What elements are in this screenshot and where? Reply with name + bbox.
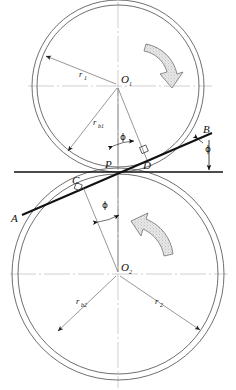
rotation-arrow-bottom-icon <box>131 213 173 256</box>
centerlines <box>10 2 228 388</box>
label-angle-top: ϕ <box>120 132 126 142</box>
label-point-c: C <box>72 174 80 186</box>
label-bottom-base-radius-sub: b2 <box>81 302 87 308</box>
label-top-base-radius-sub: b1 <box>98 123 104 129</box>
angle-arc-bottom <box>98 215 119 222</box>
label-center-bottom-sub: 2 <box>129 269 132 275</box>
label-center-bottom: O <box>121 261 129 273</box>
label-pitch-point: P <box>104 158 112 170</box>
label-top-base-radius: r <box>93 117 97 127</box>
label-point-a: A <box>10 212 18 224</box>
label-bottom-pitch-radius: r <box>155 296 159 306</box>
bottom-construction-lines <box>58 174 200 331</box>
label-point-b: B <box>203 123 210 135</box>
label-bottom-pitch-radius-sub: 2 <box>160 302 163 308</box>
top-construction-lines <box>46 56 147 170</box>
label-center-top: O <box>121 73 129 85</box>
line-of-action-AB <box>22 133 212 215</box>
label-point-d: D <box>142 159 151 171</box>
O1-to-D-line <box>118 88 147 160</box>
bottom-base-radius-leader <box>58 276 116 331</box>
label-bottom-base-radius: r <box>76 296 80 306</box>
label-top-pitch-radius-sub: 1 <box>84 75 87 81</box>
label-angle-bottom: ϕ <box>102 200 108 210</box>
gear-geometry-figure: O 1 O 2 r 1 r b1 r b2 r 2 P D C B A ϕ ϕ … <box>0 0 236 390</box>
angle-indicator-bottom <box>98 215 119 222</box>
label-angle-right: ϕ <box>205 144 211 154</box>
angle-right-pointer <box>198 139 203 143</box>
label-center-top-sub: 1 <box>129 81 132 87</box>
diagram-canvas: O 1 O 2 r 1 r b1 r b2 r 2 P D C B A ϕ ϕ … <box>0 0 236 390</box>
O2-to-C-line <box>83 187 118 272</box>
rotation-arrow-top-icon <box>144 44 183 88</box>
